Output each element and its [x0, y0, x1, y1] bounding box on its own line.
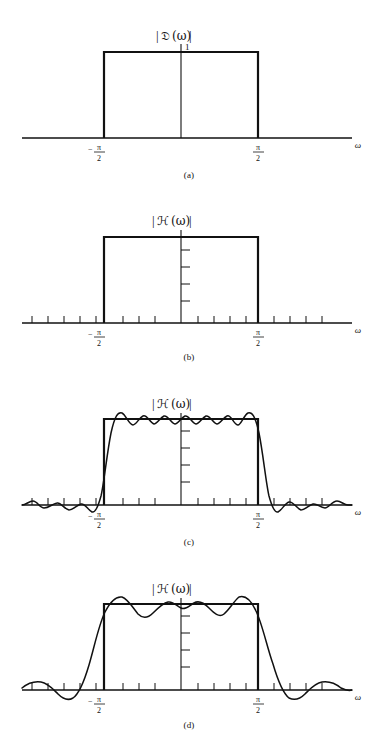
panel-a: | 𝔇 (ω) | 1 − π 2 π 2 ω (a): [0, 0, 378, 190]
two-denominator: 2: [256, 521, 260, 530]
y-axis-ticks: [181, 250, 190, 301]
ylabel-right-bar: |: [189, 28, 192, 43]
panel-a-plot: | 𝔇 (ω) | 1 − π 2 π 2 ω: [0, 0, 378, 165]
panel-d: | ℋ (ω) | − π 2 π 2 ω (d): [0, 550, 378, 732]
left-cutoff-label: − π 2: [88, 510, 105, 530]
panel-b-plot: | ℋ (ω) | − π 2 π 2 ω: [0, 190, 378, 350]
ylabel-symbol-H: ℋ: [157, 582, 169, 596]
panel-caption-d: (d): [0, 720, 378, 730]
minus-sign: −: [88, 330, 93, 339]
two-denominator: 2: [97, 706, 101, 715]
ylabel-right-bar: |: [189, 213, 192, 228]
pi-numerator: π: [256, 328, 260, 337]
panel-caption-c: (c): [0, 537, 378, 547]
ylabel-symbol-D: 𝔇: [161, 29, 170, 43]
ylabel-left-bar: |: [152, 581, 155, 596]
ylabel-symbol-H: ℋ: [157, 397, 169, 411]
pi-numerator: π: [97, 143, 101, 152]
truncated-series-curve: [22, 413, 352, 512]
pi-numerator: π: [256, 695, 260, 704]
ylabel-left-bar: |: [152, 396, 155, 411]
ylabel-argument: (ω): [171, 214, 190, 228]
pi-numerator: π: [256, 143, 260, 152]
two-denominator: 2: [97, 154, 101, 163]
minus-sign: −: [88, 145, 93, 154]
two-denominator: 2: [256, 154, 260, 163]
ylabel-argument: (ω): [171, 582, 190, 596]
figure-root: | 𝔇 (ω) | 1 − π 2 π 2 ω (a): [0, 0, 378, 732]
amplitude-label-one: 1: [185, 42, 190, 52]
left-cutoff-label: − π 2: [88, 328, 105, 348]
pi-numerator: π: [97, 695, 101, 704]
right-cutoff-label: π 2: [253, 695, 264, 715]
x-axis-ticks: [32, 683, 322, 690]
pi-numerator: π: [97, 510, 101, 519]
y-axis-ticks: [181, 431, 190, 482]
minus-sign: −: [88, 697, 93, 706]
ylabel-symbol-H: ℋ: [157, 214, 169, 228]
y-axis-label-group: | ℋ (ω) |: [152, 581, 192, 596]
x-axis-label-omega: ω: [355, 140, 361, 150]
right-cutoff-label: π 2: [253, 328, 264, 348]
right-cutoff-label: π 2: [253, 143, 264, 163]
y-axis-label-group: | ℋ (ω) |: [152, 396, 192, 411]
pi-numerator: π: [97, 328, 101, 337]
left-cutoff-label: − π 2: [88, 143, 105, 163]
x-axis-label-omega: ω: [355, 692, 361, 702]
pi-numerator: π: [256, 510, 260, 519]
y-axis-label-group: | 𝔇 (ω) |: [156, 28, 192, 43]
two-denominator: 2: [256, 706, 260, 715]
x-axis-ticks: [32, 316, 322, 323]
x-axis-ticks: [32, 498, 322, 505]
ylabel-left-bar: |: [156, 28, 159, 43]
panel-c: | ℋ (ω) | − π 2 π 2 ω (c): [0, 365, 378, 550]
minus-sign: −: [88, 512, 93, 521]
right-cutoff-label: π 2: [253, 510, 264, 530]
panel-caption-b: (b): [0, 352, 378, 362]
y-axis-label-group: | ℋ (ω) |: [152, 213, 192, 228]
x-axis-label-omega: ω: [355, 325, 361, 335]
ylabel-right-bar: |: [189, 396, 192, 411]
ylabel-left-bar: |: [152, 213, 155, 228]
left-cutoff-label: − π 2: [88, 695, 105, 715]
x-axis-label-omega: ω: [355, 507, 361, 517]
two-denominator: 2: [97, 521, 101, 530]
panel-b: | ℋ (ω) | − π 2 π 2 ω (b): [0, 190, 378, 365]
panel-caption-a: (a): [0, 170, 378, 180]
panel-d-plot: | ℋ (ω) | − π 2 π 2 ω: [0, 550, 378, 720]
ylabel-argument: (ω): [171, 397, 190, 411]
panel-c-plot: | ℋ (ω) | − π 2 π 2 ω: [0, 365, 378, 535]
ylabel-right-bar: |: [189, 581, 192, 596]
y-axis-ticks: [181, 616, 190, 667]
two-denominator: 2: [97, 339, 101, 348]
truncated-series-curve: [22, 597, 352, 700]
two-denominator: 2: [256, 339, 260, 348]
